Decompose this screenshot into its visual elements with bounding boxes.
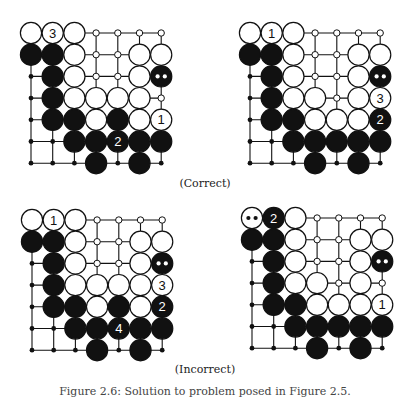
- empty-point-dot-marker: [250, 302, 255, 307]
- stone-mark-dot: [246, 216, 250, 220]
- white-stone: [307, 294, 328, 315]
- black-stone: [305, 153, 326, 174]
- move-number: 2: [114, 134, 121, 149]
- empty-point-hollow-marker: [357, 215, 363, 221]
- white-stone: [283, 88, 304, 109]
- empty-point-dot-marker: [73, 348, 78, 353]
- move-number: 1: [268, 26, 275, 41]
- empty-point-dot-marker: [51, 326, 56, 331]
- black-stone: [328, 316, 349, 337]
- empty-point-hollow-marker: [116, 239, 122, 245]
- black-stone: [64, 131, 85, 152]
- black-stone: [326, 131, 347, 152]
- black-stone: [307, 316, 328, 337]
- empty-point-dot-marker: [248, 74, 253, 79]
- black-stone: [129, 131, 150, 152]
- black-stone: [241, 229, 262, 250]
- black-stone: [261, 66, 282, 87]
- black-stone: [350, 316, 371, 337]
- white-stone: [305, 88, 326, 109]
- white-stone: [307, 273, 328, 294]
- empty-point-dot-marker: [271, 346, 276, 351]
- move-number: 2: [159, 299, 166, 314]
- empty-point-hollow-marker: [336, 215, 342, 221]
- empty-point-hollow-marker: [312, 52, 318, 58]
- white-stone: [285, 229, 306, 250]
- empty-point-dot-marker: [159, 161, 164, 166]
- empty-point-dot-marker: [250, 259, 255, 264]
- empty-point-dot-marker: [248, 139, 253, 144]
- white-stone: [283, 66, 304, 87]
- white-stone: [87, 275, 108, 296]
- white-stone: [372, 229, 393, 250]
- empty-point-dot-marker: [269, 139, 274, 144]
- empty-point-hollow-marker: [334, 30, 340, 36]
- white-stone: [350, 294, 371, 315]
- empty-point-hollow-marker: [94, 260, 100, 266]
- empty-point-hollow-marker: [355, 30, 361, 36]
- black-stone: [283, 109, 304, 130]
- white-stone: [151, 44, 172, 65]
- black-stone: [42, 109, 63, 130]
- empty-point-dot-marker: [271, 324, 276, 329]
- empty-point-dot-marker: [29, 139, 34, 144]
- empty-point-dot-marker: [336, 346, 341, 351]
- black-stone: [348, 131, 369, 152]
- board-correct-2: 132: [239, 22, 390, 173]
- black-stone: [263, 294, 284, 315]
- empty-point-dot-marker: [293, 346, 298, 351]
- white-stone: [326, 109, 347, 130]
- empty-point-dot-marker: [380, 346, 385, 351]
- stone-mark-dot: [157, 261, 161, 265]
- black-stone: [42, 88, 63, 109]
- empty-point-dot-marker: [160, 348, 165, 353]
- black-stone: [283, 131, 304, 152]
- white-stone: [348, 109, 369, 130]
- empty-point-dot-marker: [29, 96, 34, 101]
- empty-point-dot-marker: [29, 117, 34, 122]
- empty-point-hollow-marker: [115, 30, 121, 36]
- empty-point-hollow-marker: [314, 258, 320, 264]
- stone-mark-dot: [156, 74, 160, 78]
- black-stone: [43, 253, 64, 274]
- move-number: 2: [270, 211, 277, 226]
- white-stone: [21, 209, 42, 230]
- empty-point-dot-marker: [30, 326, 35, 331]
- white-stone: [129, 88, 150, 109]
- move-number: 3: [49, 26, 56, 41]
- empty-point-dot-marker: [248, 161, 253, 166]
- empty-point-hollow-marker: [116, 217, 122, 223]
- black-stone: [285, 316, 306, 337]
- white-stone: [20, 22, 41, 43]
- board-incorrect-2: 21: [241, 207, 392, 358]
- empty-point-hollow-marker: [93, 52, 99, 58]
- white-stone: [86, 109, 107, 130]
- empty-point-dot-marker: [248, 117, 253, 122]
- white-stone: [129, 44, 150, 65]
- black-stone: [261, 88, 282, 109]
- black-stone: [42, 44, 63, 65]
- black-stone: [372, 316, 393, 337]
- empty-point-hollow-marker: [137, 217, 143, 223]
- black-stone: [130, 340, 151, 361]
- black-stone: [65, 318, 86, 339]
- black-stone: [152, 318, 173, 339]
- empty-point-hollow-marker: [116, 260, 122, 266]
- black-stone: [43, 275, 64, 296]
- correct-label: (Correct): [0, 177, 410, 190]
- move-number: 3: [159, 278, 166, 293]
- empty-point-hollow-marker: [115, 73, 121, 79]
- empty-point-hollow-marker: [136, 30, 142, 36]
- black-stone: [43, 296, 64, 317]
- empty-point-hollow-marker: [336, 258, 342, 264]
- empty-point-dot-marker: [30, 283, 35, 288]
- empty-point-dot-marker: [72, 161, 77, 166]
- black-stone: [370, 131, 391, 152]
- white-stone: [64, 44, 85, 65]
- board-correct-1: 312: [20, 22, 171, 173]
- white-stone: [285, 251, 306, 272]
- black-stone: [350, 338, 371, 359]
- stone-mark-dot: [384, 259, 388, 263]
- empty-point-dot-marker: [248, 96, 253, 101]
